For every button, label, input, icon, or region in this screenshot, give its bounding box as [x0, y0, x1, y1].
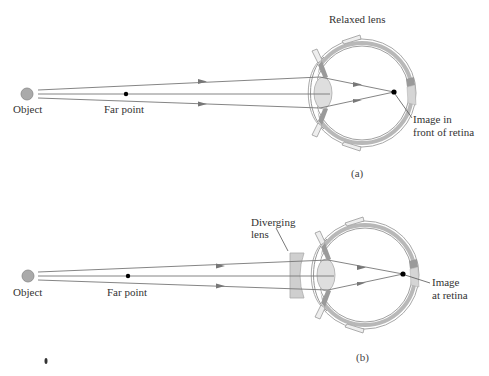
ray-bottom: [38, 98, 320, 108]
ray-top: [38, 77, 320, 90]
object-circle: [22, 270, 34, 282]
arrow-icon: [198, 79, 207, 84]
far-point-label: Far point: [104, 103, 144, 115]
image-dot: [400, 271, 405, 276]
image-label-line1: Image in: [413, 113, 452, 125]
speck-mark: [45, 358, 48, 364]
diverging-lens: [290, 253, 304, 298]
image-dot: [391, 89, 396, 94]
object-circle: [21, 88, 33, 100]
arrow-icon: [198, 102, 207, 107]
image-label-line1: Image: [432, 276, 460, 288]
panel-b: Object Far point Diverging lens Image at…: [13, 216, 468, 364]
myopia-correction-diagram: Object Far point Relaxed lens Image in f…: [0, 0, 489, 376]
diverging-lens-label-line1: Diverging: [251, 216, 296, 228]
object-label: Object: [13, 286, 42, 298]
diverging-lens-leader-line: [276, 228, 288, 251]
arrow-icon: [216, 284, 225, 289]
object-label: Object: [13, 103, 42, 115]
relaxed-lens-label: Relaxed lens: [329, 13, 386, 25]
arrow-icon: [357, 282, 366, 286]
image-label-line2: front of retina: [413, 126, 474, 138]
diverging-lens-label-line2: lens: [251, 228, 269, 240]
panel-a-caption: (a): [351, 167, 364, 180]
arrow-icon: [357, 265, 366, 270]
panel-a: Object Far point Relaxed lens Image in f…: [13, 13, 474, 180]
far-point-label: Far point: [107, 286, 147, 298]
eye-a: [302, 35, 416, 151]
arrow-icon: [353, 82, 362, 87]
far-point-dot: [126, 274, 130, 278]
image-label-line2: at retina: [432, 289, 468, 301]
far-point-dot: [124, 92, 128, 96]
panel-b-caption: (b): [356, 351, 369, 364]
